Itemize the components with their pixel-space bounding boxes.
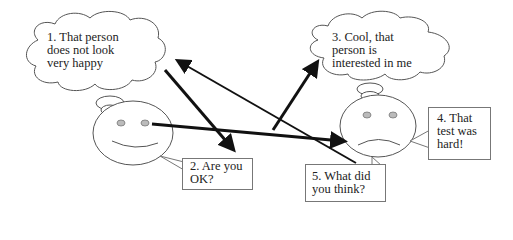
eye-left [117, 120, 125, 126]
thought-text-1: 1. That person does not look very happy [47, 31, 119, 70]
face-left [93, 101, 173, 165]
speech-text-5: 5. What did you think? [312, 170, 370, 196]
face-right [340, 95, 416, 157]
speech-text-2: 2. Are you OK? [190, 160, 242, 186]
eye-left [363, 112, 371, 118]
speech-tail-2 [160, 156, 184, 170]
arrow-1-to-2 [165, 70, 232, 148]
thought-text-3: 3. Cool, that person is interested in me [332, 31, 412, 70]
arrow-5-to-1 [180, 62, 356, 163]
eye-right [141, 120, 149, 126]
eye-right [389, 112, 397, 118]
speech-text-4: 4. That test was hard! [437, 112, 477, 151]
